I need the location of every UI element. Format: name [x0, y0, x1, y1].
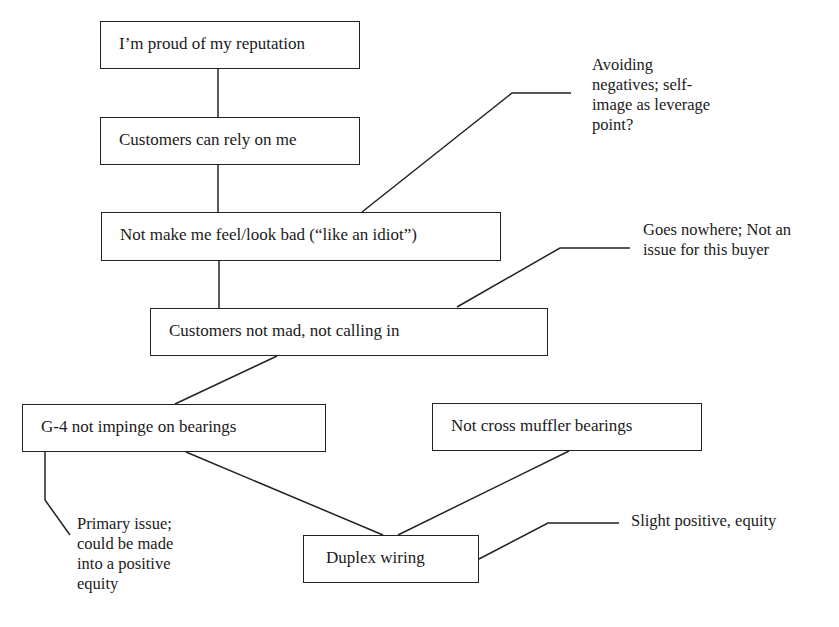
edge-n5-n7: [186, 452, 383, 535]
annotation-slight-positive: Slight positive, equity: [631, 511, 776, 531]
leader-a3: [45, 452, 70, 535]
annotation-line: could be made: [77, 534, 173, 554]
leader-a4: [479, 523, 619, 559]
annotation-line: image as leverage: [592, 95, 710, 115]
node-label: Not make me feel/look bad (“like an idio…: [120, 225, 417, 244]
annotation-line: issue for this buyer: [643, 240, 791, 260]
node-customers-not-mad: Customers not mad, not calling in: [150, 308, 548, 356]
node-customers-can-rely: Customers can rely on me: [100, 117, 360, 165]
annotation-line: Primary issue;: [77, 514, 173, 534]
annotation-line: point?: [592, 115, 710, 135]
node-label: Not cross muffler bearings: [451, 416, 632, 435]
node-label: G-4 not impinge on bearings: [41, 417, 236, 436]
node-g4-not-impinge: G-4 not impinge on bearings: [22, 404, 326, 452]
annotation-line: equity: [77, 574, 173, 594]
annotation-line: Slight positive, equity: [631, 511, 776, 531]
node-duplex-wiring: Duplex wiring: [303, 535, 479, 583]
annotation-line: Goes nowhere; Not an: [643, 220, 791, 240]
leader-a1: [362, 93, 571, 212]
node-not-cross-muffler: Not cross muffler bearings: [432, 403, 702, 451]
annotation-line: Avoiding: [592, 55, 710, 75]
node-label: I’m proud of my reputation: [119, 34, 305, 53]
edge-n4-n5: [175, 356, 277, 404]
annotation-line: negatives; self-: [592, 75, 710, 95]
annotation-line: into a positive: [77, 554, 173, 574]
node-not-look-bad: Not make me feel/look bad (“like an idio…: [101, 212, 501, 261]
node-proud-of-reputation: I’m proud of my reputation: [100, 21, 360, 69]
annotation-primary-issue: Primary issue; could be made into a posi…: [77, 514, 173, 594]
annotation-goes-nowhere: Goes nowhere; Not an issue for this buye…: [643, 220, 791, 260]
node-label: Duplex wiring: [326, 548, 425, 567]
edge-n6-n7: [398, 451, 569, 535]
node-label: Customers not mad, not calling in: [169, 321, 399, 340]
annotation-avoiding-negatives: Avoiding negatives; self- image as lever…: [592, 55, 710, 135]
node-label: Customers can rely on me: [119, 130, 297, 149]
laddering-diagram: I’m proud of my reputation Customers can…: [0, 0, 839, 627]
